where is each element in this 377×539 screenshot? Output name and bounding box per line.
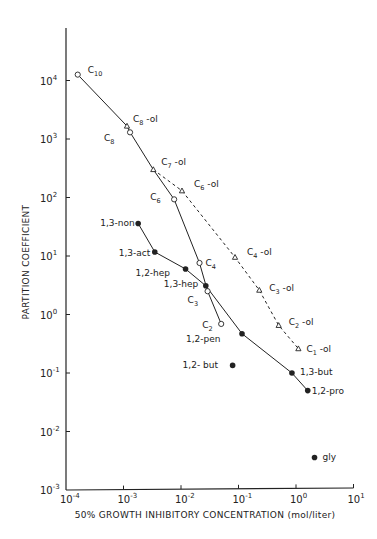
filled-circle-marker bbox=[183, 266, 189, 272]
open-triangle-marker bbox=[276, 323, 281, 328]
diol-trend-line bbox=[138, 224, 308, 391]
open-triangle-marker bbox=[179, 188, 184, 193]
x-tick-label: 10-2 bbox=[175, 492, 195, 505]
point-label: 1,2-pen bbox=[186, 334, 221, 344]
point-label: 1,3-but bbox=[300, 367, 333, 377]
filled-circle-marker bbox=[312, 455, 318, 461]
open-circle-marker bbox=[172, 197, 177, 202]
point-label: C7 -ol bbox=[161, 157, 186, 170]
x-tick-label: 10-4 bbox=[60, 492, 80, 505]
y-axis-title: PARTITION COEFFICIENT bbox=[21, 204, 31, 319]
point-label: C8 bbox=[104, 133, 114, 146]
filled-circle-marker bbox=[239, 331, 245, 337]
y-tick-label: 102 bbox=[40, 191, 57, 204]
filled-circle-marker bbox=[289, 370, 295, 376]
y-tick-label: 104 bbox=[40, 74, 58, 87]
point-label: 1,2-hep bbox=[136, 268, 171, 278]
point-label: 1,2- but bbox=[183, 360, 219, 370]
x-axis-line bbox=[66, 488, 354, 490]
y-tick-label: 10-3 bbox=[40, 483, 60, 496]
point-label: C8 -ol bbox=[133, 114, 158, 127]
x-tick-label: 10-3 bbox=[118, 492, 138, 505]
point-label: C2 -ol bbox=[289, 317, 314, 330]
point-label: C1 -ol bbox=[306, 344, 331, 357]
filled-circle-marker bbox=[135, 221, 141, 227]
y-tick-label: 10-2 bbox=[40, 425, 60, 438]
point-label: C2 bbox=[202, 320, 212, 333]
open-circle-marker bbox=[219, 321, 224, 326]
point-label: 1,3-hep bbox=[164, 279, 199, 289]
x-tick-label: 100 bbox=[290, 492, 307, 505]
y-tick-label: 100 bbox=[40, 308, 57, 321]
open-circle-marker bbox=[197, 260, 202, 265]
filled-circle-marker bbox=[152, 249, 158, 255]
open-circle-marker bbox=[75, 72, 80, 77]
filled-circle-marker bbox=[230, 363, 236, 369]
point-label: 1,3-act bbox=[119, 248, 151, 258]
x-tick-label: 101 bbox=[348, 492, 365, 505]
open-triangle-marker bbox=[232, 255, 237, 260]
point-label: C6 bbox=[150, 192, 160, 205]
data-points bbox=[75, 72, 317, 460]
axes: 10-410-310-210-110010110-310-210-1100101… bbox=[40, 28, 365, 505]
point-label: C6 -ol bbox=[194, 179, 219, 192]
x-axis-title: 50% GROWTH INHIBITORY CONCENTRATION (mol… bbox=[75, 510, 336, 520]
point-label: 1,2-pro bbox=[312, 386, 345, 396]
filled-circle-marker bbox=[305, 388, 311, 394]
x-tick-label: 10-1 bbox=[233, 492, 253, 505]
open-circle-marker bbox=[127, 130, 132, 135]
y-tick-label: 10-1 bbox=[40, 366, 60, 379]
point-label: C10 bbox=[88, 65, 103, 78]
filled-circle-marker bbox=[203, 283, 209, 289]
open-circle-marker bbox=[205, 289, 210, 294]
partition-coefficient-chart: 10-410-310-210-110010110-310-210-1100101… bbox=[0, 0, 377, 539]
y-tick-label: 103 bbox=[40, 132, 57, 145]
y-tick-label: 101 bbox=[40, 249, 57, 262]
point-label: C3 -ol bbox=[269, 283, 294, 296]
point-label: gly bbox=[323, 452, 337, 462]
point-label: C4 bbox=[206, 258, 216, 271]
point-label: 1,3-non bbox=[100, 218, 134, 228]
point-label: C4 -ol bbox=[247, 247, 272, 260]
point-label: C3 bbox=[188, 295, 198, 308]
